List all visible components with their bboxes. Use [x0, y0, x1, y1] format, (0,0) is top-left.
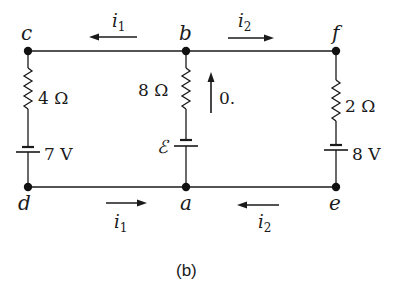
node-label-e: e — [329, 191, 341, 215]
arrow-right-icon — [228, 35, 274, 42]
battery-middle-label: ℰ — [157, 136, 170, 157]
figure-caption: (b) — [176, 261, 197, 280]
arrow-left-icon — [89, 34, 137, 41]
resistor-middle-label: 8 Ω — [138, 80, 168, 100]
node-label-c: c — [21, 21, 32, 45]
resistor-right-label: 2 Ω — [345, 96, 375, 116]
node-label-a: a — [180, 191, 192, 215]
battery-right — [324, 145, 348, 150]
junctions — [24, 47, 340, 191]
battery-right-label: 8 V — [352, 144, 381, 164]
node-label-b: b — [179, 21, 192, 45]
wires — [24, 51, 340, 187]
current-label-top-left: i1 — [112, 10, 125, 34]
junction-f — [332, 47, 340, 55]
arrow-left-icon — [237, 202, 279, 209]
current-label-bottom-left: i1 — [114, 211, 127, 235]
junction-e — [332, 183, 340, 191]
arrow-up-icon — [208, 72, 215, 113]
resistor-left-label: 4 Ω — [38, 88, 68, 108]
resistor-right — [332, 80, 340, 121]
node-label-d: d — [18, 191, 31, 215]
circuit-diagram: c b f d a e i1 i2 i1 i2 0. 4 Ω 8 Ω 2 Ω 7… — [0, 0, 402, 287]
current-label-middle: 0. — [219, 88, 235, 108]
battery-left — [16, 147, 40, 152]
current-arrows — [89, 34, 279, 209]
current-label-top-right: i2 — [238, 10, 251, 34]
arrow-right-icon — [106, 200, 147, 207]
junction-b — [182, 47, 190, 55]
resistor-left — [24, 68, 32, 109]
junction-d — [24, 183, 32, 191]
junction-c — [24, 47, 32, 55]
junction-a — [182, 183, 190, 191]
battery-left-label: 7 V — [44, 144, 73, 164]
resistor-middle — [182, 68, 190, 109]
current-label-bottom-right: i2 — [258, 211, 271, 235]
battery-middle — [174, 140, 198, 146]
node-label-f: f — [330, 21, 343, 45]
